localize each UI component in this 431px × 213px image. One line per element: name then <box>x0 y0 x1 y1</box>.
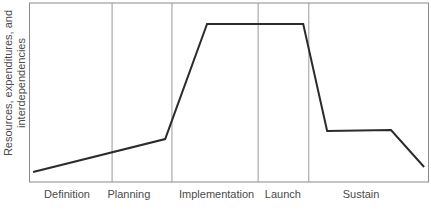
project-lifecycle-chart: Resources, expenditures, and interdepend… <box>0 0 431 213</box>
plot-frame <box>30 3 429 182</box>
phase-label-definition: Definition <box>44 188 90 200</box>
phase-label-sustain: Sustain <box>343 188 380 200</box>
phase-label-implementation: Implementation <box>179 188 254 200</box>
plot-area <box>0 0 431 213</box>
resource-curve-line <box>33 24 424 172</box>
phase-label-planning: Planning <box>107 188 150 200</box>
phase-label-launch: Launch <box>265 188 301 200</box>
